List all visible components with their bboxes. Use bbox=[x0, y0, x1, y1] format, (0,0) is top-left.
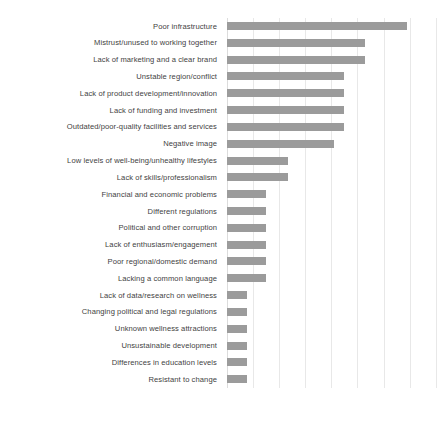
category-label-row: Outdated/poor-quality facilities and ser… bbox=[0, 119, 222, 135]
category-label: Lack of product development/innovation bbox=[80, 89, 222, 98]
category-label-row: Financial and economic problems bbox=[0, 186, 222, 202]
category-label: Unstable region/conflict bbox=[136, 72, 222, 81]
bar-row bbox=[227, 52, 441, 68]
bar bbox=[227, 308, 247, 316]
bar-row bbox=[227, 304, 441, 320]
bar bbox=[227, 207, 266, 215]
category-label-row: Political and other corruption bbox=[0, 220, 222, 236]
bar-row bbox=[227, 85, 441, 101]
bar-row bbox=[227, 287, 441, 303]
category-label: Lack of enthusiasm/engagement bbox=[105, 240, 222, 249]
bar bbox=[227, 56, 365, 64]
category-label: Different regulations bbox=[148, 207, 222, 216]
bar bbox=[227, 325, 247, 333]
bar bbox=[227, 190, 266, 198]
bar-row bbox=[227, 169, 441, 185]
category-label: Resistant to change bbox=[148, 375, 222, 384]
category-label-row: Poor regional/domestic demand bbox=[0, 253, 222, 269]
bar-row bbox=[227, 186, 441, 202]
bar bbox=[227, 358, 247, 366]
category-label: Unknown wellness attractions bbox=[115, 324, 222, 333]
category-label: Unsustainable development bbox=[121, 341, 222, 350]
bar bbox=[227, 140, 334, 148]
bar bbox=[227, 123, 344, 131]
bar bbox=[227, 157, 288, 165]
category-label: Lack of data/research on wellness bbox=[100, 291, 222, 300]
category-label-row: Lack of skills/professionalism bbox=[0, 169, 222, 185]
category-label-row: Lack of product development/innovation bbox=[0, 85, 222, 101]
category-label-row: Lack of funding and investment bbox=[0, 102, 222, 118]
bar bbox=[227, 224, 266, 232]
bar bbox=[227, 342, 247, 350]
bar-row bbox=[227, 119, 441, 135]
category-label: Lack of marketing and a clear brand bbox=[93, 55, 222, 64]
bar bbox=[227, 173, 288, 181]
category-label-row: Unstable region/conflict bbox=[0, 68, 222, 84]
bar-row bbox=[227, 203, 441, 219]
bar-row bbox=[227, 338, 441, 354]
category-label-row: Low levels of well-being/unhealthy lifes… bbox=[0, 153, 222, 169]
category-label-row: Poor infrastructure bbox=[0, 18, 222, 34]
bar bbox=[227, 241, 266, 249]
bar bbox=[227, 72, 344, 80]
bar-row bbox=[227, 153, 441, 169]
bar-row bbox=[227, 102, 441, 118]
bar-series bbox=[227, 18, 441, 388]
bar-row bbox=[227, 371, 441, 387]
bar bbox=[227, 106, 344, 114]
category-label-row: Lack of marketing and a clear brand bbox=[0, 52, 222, 68]
category-label: Financial and economic problems bbox=[102, 190, 222, 199]
bar-row bbox=[227, 35, 441, 51]
category-label: Low levels of well-being/unhealthy lifes… bbox=[67, 156, 222, 165]
category-label: Changing political and legal regulations bbox=[82, 307, 222, 316]
bar-row bbox=[227, 237, 441, 253]
category-label-row: Mistrust/unused to working together bbox=[0, 35, 222, 51]
bar-row bbox=[227, 136, 441, 152]
category-label: Lack of funding and investment bbox=[110, 106, 222, 115]
bar bbox=[227, 257, 266, 265]
bar bbox=[227, 274, 266, 282]
bar-row bbox=[227, 270, 441, 286]
category-label-row: Lacking a common language bbox=[0, 270, 222, 286]
category-axis-labels: Poor infrastructureMistrust/unused to wo… bbox=[0, 18, 222, 388]
category-label-row: Differences in education levels bbox=[0, 354, 222, 370]
category-label: Differences in education levels bbox=[112, 358, 222, 367]
bar-row bbox=[227, 354, 441, 370]
category-label: Poor infrastructure bbox=[153, 22, 222, 31]
category-label: Poor regional/domestic demand bbox=[108, 257, 222, 266]
category-label-row: Unsustainable development bbox=[0, 338, 222, 354]
horizontal-bar-chart: Poor infrastructureMistrust/unused to wo… bbox=[0, 0, 444, 429]
bar-row bbox=[227, 253, 441, 269]
category-label-row: Changing political and legal regulations bbox=[0, 304, 222, 320]
category-label-row: Negative image bbox=[0, 136, 222, 152]
category-label: Negative image bbox=[163, 139, 222, 148]
category-label-row: Different regulations bbox=[0, 203, 222, 219]
bar bbox=[227, 39, 365, 47]
bar bbox=[227, 89, 344, 97]
category-label-row: Unknown wellness attractions bbox=[0, 321, 222, 337]
category-label: Mistrust/unused to working together bbox=[94, 38, 222, 47]
category-label-row: Lack of data/research on wellness bbox=[0, 287, 222, 303]
category-label: Outdated/poor-quality facilities and ser… bbox=[67, 122, 222, 131]
bar-row bbox=[227, 18, 441, 34]
bar-row bbox=[227, 220, 441, 236]
bar bbox=[227, 375, 247, 383]
plot-area bbox=[227, 18, 441, 388]
bar-row bbox=[227, 68, 441, 84]
bar bbox=[227, 291, 247, 299]
bar bbox=[227, 22, 407, 30]
category-label: Political and other corruption bbox=[118, 223, 222, 232]
bar-row bbox=[227, 321, 441, 337]
category-label-row: Resistant to change bbox=[0, 371, 222, 387]
category-label: Lacking a common language bbox=[118, 274, 222, 283]
category-label: Lack of skills/professionalism bbox=[117, 173, 222, 182]
category-label-row: Lack of enthusiasm/engagement bbox=[0, 237, 222, 253]
